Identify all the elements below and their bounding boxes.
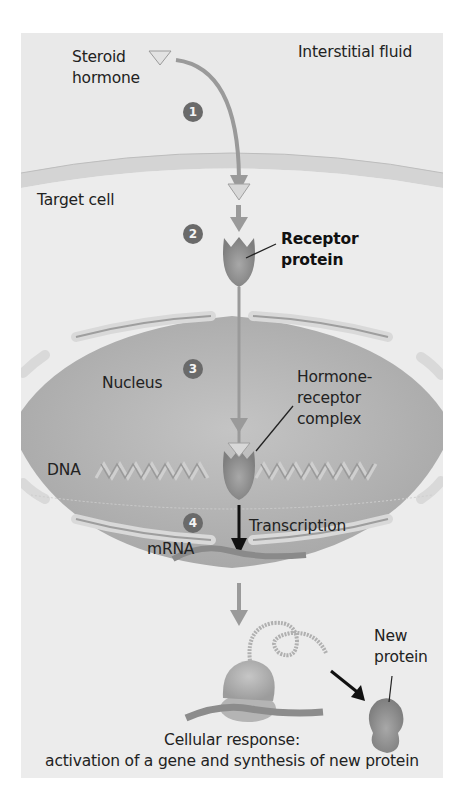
target-cell-label: Target cell	[37, 190, 114, 211]
hormone-receptor-label-3: complex	[297, 409, 361, 430]
interstitial-fluid-label: Interstitial fluid	[298, 42, 412, 63]
step-2-badge: 2	[183, 224, 203, 244]
new-protein-label-2: protein	[374, 647, 428, 668]
steroid-hormone-label-1: Steroid	[72, 47, 126, 68]
caption-line-1: Cellular response:	[21, 730, 443, 751]
hormone-receptor-label-2: receptor	[297, 388, 361, 409]
receptor-protein-label-2: protein	[281, 250, 343, 271]
step-3-badge: 3	[183, 359, 203, 379]
new-protein-label-1: New	[374, 626, 407, 647]
steroid-hormone-icon	[149, 51, 171, 65]
step-1-badge: 1	[183, 102, 203, 122]
hormone-receptor-label-1: Hormone-	[297, 367, 372, 388]
receptor-protein-label-1: Receptor	[281, 229, 358, 250]
dna-label: DNA	[47, 460, 81, 481]
caption-line-2: activation of a gene and synthesis of ne…	[21, 751, 443, 772]
transcription-label: Transcription	[249, 516, 346, 537]
step-4-badge: 4	[183, 513, 203, 533]
nucleus-label: Nucleus	[102, 373, 162, 394]
mrna-label: mRNA	[147, 539, 194, 560]
steroid-hormone-label-2: hormone	[72, 68, 140, 89]
transcription-arrow	[238, 505, 241, 543]
diagram-panel: Steroid hormone Interstitial fluid 1 Tar…	[21, 33, 443, 778]
